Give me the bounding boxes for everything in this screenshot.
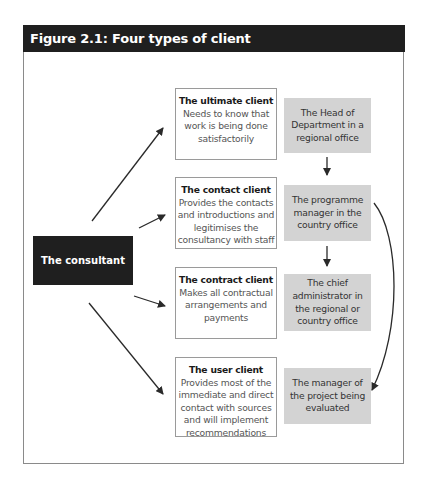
client-description: Needs to know that work is being done sa… — [183, 108, 269, 144]
role-label: The programme manager in the country off… — [286, 194, 369, 232]
client-title: The contact client — [176, 184, 276, 197]
contact-client-box: The contact client Provides the contacts… — [175, 177, 277, 249]
client-description: Provides the contacts and introductions … — [178, 197, 275, 246]
contract-client-box: The contract client Makes all contractua… — [175, 267, 277, 339]
arrow-to-user-client — [89, 303, 163, 394]
role-box-head-of-department: The Head of Department in a regional off… — [284, 98, 371, 153]
client-title: The user client — [176, 364, 276, 377]
ultimate-client-box: The ultimate client Needs to know that w… — [175, 88, 277, 160]
curved-arrow-to-project-manager — [372, 203, 394, 390]
user-client-box: The user client Provides most of the imm… — [175, 357, 277, 437]
arrow-to-contract-client — [134, 296, 165, 306]
role-label: The Head of Department in a regional off… — [286, 107, 369, 145]
client-title: The ultimate client — [176, 95, 276, 108]
arrow-to-ultimate-client — [92, 128, 163, 221]
consultant-box: The consultant — [33, 236, 133, 285]
client-description: Provides most of the immediate and direc… — [179, 377, 274, 438]
role-box-project-manager: The manager of the project being evaluat… — [284, 368, 371, 424]
role-label: The manager of the project being evaluat… — [286, 377, 369, 415]
client-description: Makes all contractual arrangements and p… — [179, 287, 273, 323]
arrow-to-contact-client — [139, 215, 165, 228]
role-box-chief-administrator: The chief administrator in the regional … — [284, 274, 371, 331]
consultant-label: The consultant — [41, 255, 125, 266]
client-title: The contract client — [176, 274, 276, 287]
role-box-programme-manager: The programme manager in the country off… — [284, 185, 371, 241]
role-label: The chief administrator in the regional … — [286, 277, 369, 327]
